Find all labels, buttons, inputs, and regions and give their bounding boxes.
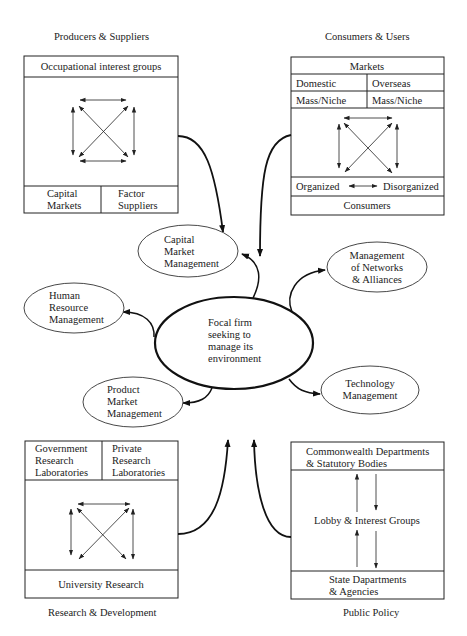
- human-resource-management-node: Human Resource Management: [24, 283, 124, 333]
- svg-text:Capital: Capital: [164, 234, 194, 245]
- product-market-management-node: Product Market Management: [83, 377, 183, 427]
- svg-text:Management: Management: [350, 250, 405, 261]
- policy-arrow-icon: [254, 440, 291, 537]
- producers-arrow-icon: [178, 136, 223, 232]
- private-labs-line3: Laboratories: [112, 467, 165, 478]
- capital-markets-line2: Markets: [47, 200, 81, 211]
- organized-label: Organized: [296, 181, 340, 192]
- disorganized-label: Disorganized: [383, 181, 440, 192]
- factor-suppliers-line2: Suppliers: [118, 200, 158, 211]
- overseas-label: Overseas: [372, 78, 410, 89]
- consumers-users-panel: Consumers & Users Markets Domestic Overs…: [291, 31, 444, 215]
- occupational-groups-label: Occupational interest groups: [41, 61, 162, 72]
- svg-text:seeking to: seeking to: [208, 329, 251, 340]
- private-labs-line1: Private: [112, 443, 142, 454]
- svg-text:Management: Management: [343, 390, 398, 401]
- gov-labs-line3: Laboratories: [35, 467, 88, 478]
- state-depts-line1: State Dapartments: [329, 574, 406, 585]
- svg-text:Market: Market: [164, 246, 194, 257]
- factor-suppliers-line1: Factor: [118, 188, 145, 199]
- mass-niche-domestic: Mass/Niche: [296, 95, 346, 106]
- lobby-groups-label: Lobby & Interest Groups: [314, 515, 420, 526]
- research-caption: Research & Development: [48, 607, 157, 618]
- markets-label: Markets: [350, 61, 384, 72]
- svg-text:Product: Product: [107, 384, 140, 395]
- svg-text:environment: environment: [208, 353, 261, 364]
- svg-text:& Alliances: & Alliances: [352, 274, 402, 285]
- svg-text:Management: Management: [107, 408, 162, 419]
- consumers-caption: Consumers & Users: [325, 31, 410, 42]
- interaction-arrows-icon: [339, 118, 397, 173]
- capital-markets-line1: Capital: [47, 188, 77, 199]
- research-development-panel: Research & Development Government Resear…: [25, 441, 178, 618]
- gov-labs-line2: Research: [35, 455, 74, 466]
- focal-firm-node: Focal firm seeking to manage its environ…: [155, 297, 313, 389]
- capital-market-management-node: Capital Market Management: [138, 225, 238, 277]
- interaction-arrows-icon: [71, 504, 133, 559]
- svg-text:Management: Management: [164, 258, 219, 269]
- policy-caption: Public Policy: [343, 607, 400, 618]
- svg-text:manage its: manage its: [208, 341, 253, 352]
- research-arrow-icon: [178, 440, 228, 534]
- interaction-arrows-icon: [73, 100, 134, 161]
- university-research-label: University Research: [58, 579, 144, 590]
- svg-text:Human: Human: [49, 290, 81, 301]
- gov-labs-line1: Government: [35, 443, 88, 454]
- svg-text:Management: Management: [49, 314, 104, 325]
- commonwealth-line2: & Statutory Bodies: [306, 458, 387, 469]
- svg-text:Market: Market: [107, 396, 137, 407]
- public-policy-panel: Public Policy Commonwealth Departments &…: [291, 442, 444, 618]
- consumers-footer: Consumers: [343, 200, 390, 211]
- environment-diagram: Producers & Suppliers Occupational inter…: [0, 0, 467, 636]
- state-depts-line2: & Agencies: [329, 586, 378, 597]
- svg-text:of Networks: of Networks: [351, 262, 403, 273]
- svg-text:Focal firm: Focal firm: [208, 317, 252, 328]
- consumers-arrow-icon: [260, 135, 291, 256]
- producers-caption: Producers & Suppliers: [54, 31, 149, 42]
- technology-management-node: Technology Management: [321, 366, 419, 414]
- domestic-label: Domestic: [296, 78, 337, 89]
- svg-text:Resource: Resource: [49, 302, 88, 313]
- commonwealth-line1: Commonwealth Departments: [306, 446, 429, 457]
- producers-suppliers-panel: Producers & Suppliers Occupational inter…: [24, 31, 178, 213]
- svg-text:Technology: Technology: [345, 378, 395, 389]
- private-labs-line2: Research: [112, 455, 151, 466]
- mass-niche-overseas: Mass/Niche: [372, 95, 422, 106]
- networks-alliances-node: Management of Networks & Alliances: [327, 242, 427, 292]
